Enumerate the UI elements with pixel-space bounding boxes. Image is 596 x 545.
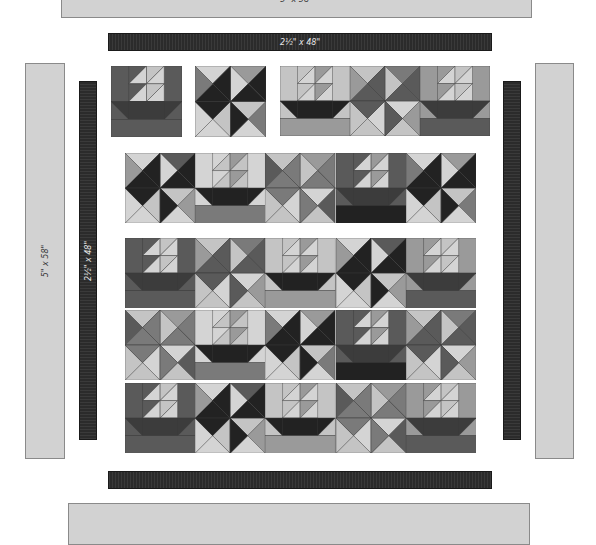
- left-outer-border: 5" x 58": [25, 63, 65, 459]
- middle-panel-pinwheel-block: [265, 153, 335, 223]
- top-right-panel-pinwheel-block: [350, 66, 420, 136]
- main-panel-row-3-sailboat-block: [125, 383, 195, 453]
- right-outer-border: [535, 63, 574, 459]
- single-pinwheel-block-pinwheel-block: [195, 66, 266, 137]
- left-outer-border-label: 5" x 58": [41, 245, 50, 277]
- top-right-panel-sailboat-block: [280, 66, 350, 136]
- main-panel-row-1-sailboat-block: [125, 238, 195, 308]
- top-inner-border: 2½" x 48": [108, 33, 492, 51]
- middle-panel-pinwheel-block: [406, 153, 476, 223]
- top-outer-border-label: 5" x 58": [280, 0, 312, 4]
- main-panel-row-2-pinwheel-block: [406, 310, 476, 380]
- main-panel-row-3-pinwheel-block: [336, 383, 406, 453]
- bottom-outer-border: [68, 503, 530, 545]
- main-panel-row-3-sailboat-block: [406, 383, 476, 453]
- left-inner-border-label: 2½" x 48": [84, 240, 93, 280]
- top-right-panel-sailboat-block: [420, 66, 490, 136]
- right-inner-border: [503, 81, 521, 440]
- main-panel-row-2-sailboat-block: [195, 310, 265, 380]
- main-panel-row-3-sailboat-block: [265, 383, 335, 453]
- main-panel-row-2-pinwheel-block: [265, 310, 335, 380]
- main-panel-row-1-pinwheel-block: [195, 238, 265, 308]
- main-panel-row-3-pinwheel-block: [195, 383, 265, 453]
- middle-panel-pinwheel-block: [125, 153, 195, 223]
- main-panel-row-1-pinwheel-block: [336, 238, 406, 308]
- main-panel-row-1-sailboat-block: [265, 238, 335, 308]
- middle-panel-sailboat-block: [195, 153, 265, 223]
- middle-panel-sailboat-block: [336, 153, 406, 223]
- single-sailboat-block-sailboat-block: [111, 66, 182, 137]
- top-outer-border: 5" x 58": [61, 0, 532, 18]
- main-panel-row-1-sailboat-block: [406, 238, 476, 308]
- left-inner-border: 2½" x 48": [79, 81, 97, 440]
- bottom-inner-border: [108, 471, 492, 489]
- main-panel-row-2-pinwheel-block: [125, 310, 195, 380]
- top-inner-border-label: 2½" x 48": [280, 38, 320, 47]
- main-panel-row-2-sailboat-block: [336, 310, 406, 380]
